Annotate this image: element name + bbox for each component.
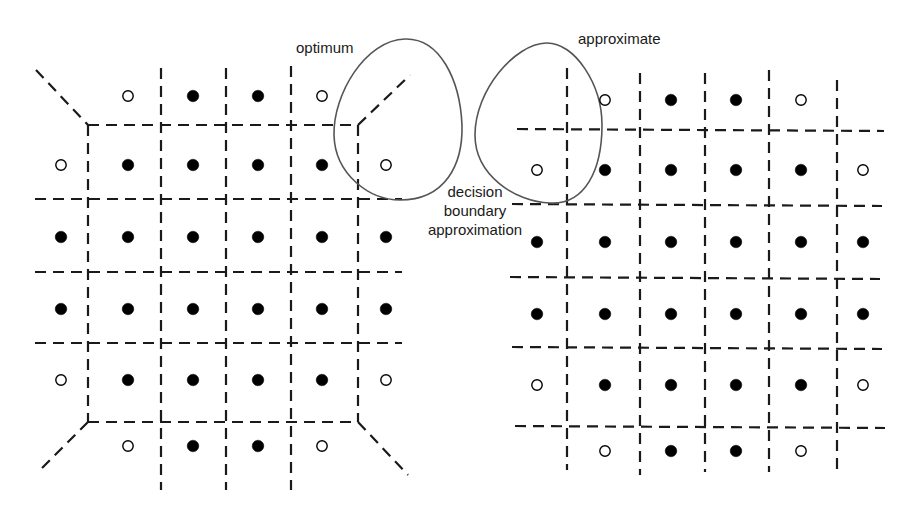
filled-point	[665, 94, 677, 106]
filled-point	[599, 236, 611, 248]
filled-point	[187, 374, 199, 386]
filled-point	[55, 303, 67, 315]
hollow-point	[858, 165, 868, 175]
decision-boundary-label: decision boundary approximation	[420, 182, 530, 239]
hollow-point	[532, 380, 542, 390]
hollow-point	[796, 446, 806, 456]
filled-point	[795, 236, 807, 248]
filled-point	[665, 164, 677, 176]
filled-point	[857, 308, 869, 320]
decision-label-line2: boundary	[420, 201, 530, 220]
filled-point	[665, 445, 677, 457]
filled-point	[252, 90, 264, 102]
filled-point	[531, 236, 543, 248]
constellation-points	[55, 90, 869, 457]
filled-point	[187, 440, 199, 452]
filled-point	[730, 445, 742, 457]
hollow-point	[858, 380, 868, 390]
filled-point	[599, 379, 611, 391]
filled-point	[252, 440, 264, 452]
filled-point	[730, 308, 742, 320]
filled-point	[316, 303, 328, 315]
filled-point	[531, 308, 543, 320]
optimum-boundaries	[35, 66, 410, 490]
hollow-point	[600, 95, 610, 105]
decision-label-line1: decision	[420, 182, 530, 201]
hollow-point	[317, 441, 327, 451]
filled-point	[599, 164, 611, 176]
filled-point	[187, 303, 199, 315]
filled-point	[55, 231, 67, 243]
filled-point	[599, 308, 611, 320]
optimum-region-outline	[334, 39, 462, 200]
approximate-label: approximate	[578, 29, 661, 48]
constellation-diagram	[0, 0, 916, 520]
filled-point	[252, 374, 264, 386]
filled-point	[380, 303, 392, 315]
filled-point	[795, 164, 807, 176]
approximate-region-outline	[475, 43, 602, 203]
filled-point	[122, 159, 134, 171]
filled-point	[665, 308, 677, 320]
blob-outlines	[334, 39, 602, 203]
filled-point	[665, 236, 677, 248]
filled-point	[380, 231, 392, 243]
filled-point	[122, 231, 134, 243]
filled-point	[857, 236, 869, 248]
filled-point	[730, 164, 742, 176]
filled-point	[316, 231, 328, 243]
filled-point	[122, 374, 134, 386]
decision-label-line3: approximation	[420, 220, 530, 239]
filled-point	[252, 159, 264, 171]
hollow-point	[796, 95, 806, 105]
filled-point	[316, 374, 328, 386]
filled-point	[316, 159, 328, 171]
filled-point	[665, 379, 677, 391]
hollow-point	[123, 441, 133, 451]
filled-point	[730, 379, 742, 391]
filled-point	[122, 303, 134, 315]
filled-point	[730, 236, 742, 248]
hollow-point	[317, 91, 327, 101]
filled-point	[187, 90, 199, 102]
hollow-point	[381, 160, 391, 170]
hollow-point	[600, 446, 610, 456]
approximate-boundaries	[510, 68, 885, 475]
filled-point	[795, 379, 807, 391]
hollow-point	[56, 160, 66, 170]
filled-point	[252, 303, 264, 315]
hollow-point	[381, 375, 391, 385]
hollow-point	[56, 375, 66, 385]
optimum-label: optimum	[296, 38, 354, 57]
filled-point	[187, 159, 199, 171]
filled-point	[187, 231, 199, 243]
filled-point	[252, 231, 264, 243]
hollow-point	[123, 91, 133, 101]
hollow-point	[532, 165, 542, 175]
filled-point	[730, 94, 742, 106]
filled-point	[795, 308, 807, 320]
